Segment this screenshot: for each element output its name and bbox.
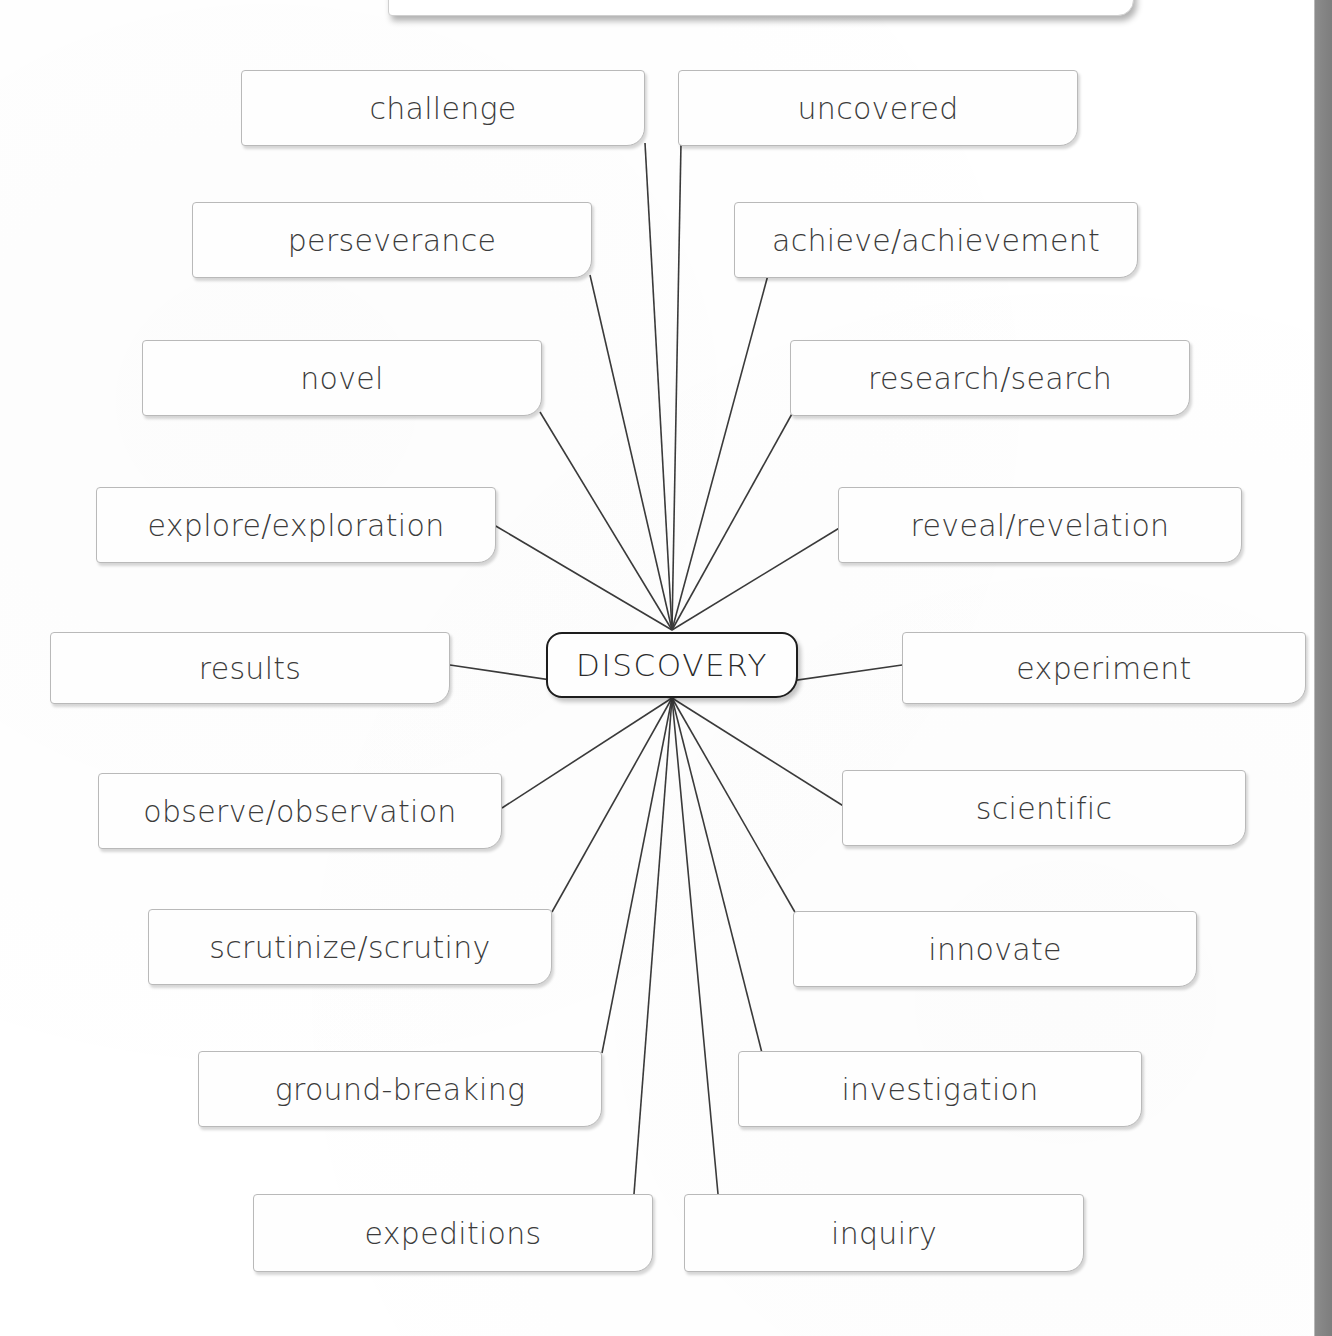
node-results[interactable]: results	[50, 632, 450, 704]
connector-innovate	[672, 698, 796, 914]
page-edge-strip-label	[1313, 170, 1331, 500]
node-inquiry[interactable]: inquiry	[684, 1194, 1084, 1272]
connector-groundbreak	[602, 698, 672, 1053]
connector-explore	[494, 525, 672, 630]
node-label: scientific	[976, 791, 1112, 826]
node-label: research/search	[868, 361, 1112, 396]
node-label: achieve/achievement	[772, 223, 1100, 258]
connector-uncovered	[672, 143, 681, 630]
connector-reveal	[672, 527, 841, 630]
connector-challenge	[645, 143, 672, 630]
node-label: reveal/revelation	[911, 508, 1170, 543]
node-challenge[interactable]: challenge	[241, 70, 645, 146]
node-experiment[interactable]: experiment	[902, 632, 1306, 704]
node-achieve[interactable]: achieve/achievement	[734, 202, 1138, 278]
node-investigate[interactable]: investigation	[738, 1051, 1142, 1127]
top-banner-remnant	[388, 0, 1134, 16]
node-label: investigation	[841, 1072, 1038, 1107]
connector-perseverance	[590, 275, 672, 630]
node-reveal[interactable]: reveal/revelation	[838, 487, 1242, 563]
connector-inquiry	[672, 698, 718, 1194]
node-label: expeditions	[365, 1216, 542, 1251]
connector-scientific	[672, 698, 845, 807]
node-label: challenge	[369, 91, 516, 126]
mind-map-canvas: DISCOVERYchallengeuncoveredperseverancea…	[0, 0, 1332, 1336]
node-label: perseverance	[288, 223, 496, 258]
node-perseverance[interactable]: perseverance	[192, 202, 592, 278]
connector-expeditions	[634, 698, 672, 1194]
node-explore[interactable]: explore/exploration	[96, 487, 496, 563]
node-label: explore/exploration	[148, 508, 445, 543]
page-edge-strip	[1310, 0, 1332, 1336]
node-label: experiment	[1016, 651, 1191, 686]
node-scientific[interactable]: scientific	[842, 770, 1246, 846]
node-label: results	[199, 651, 302, 686]
connector-novel	[540, 412, 672, 630]
connector-research	[672, 412, 793, 630]
node-label: novel	[300, 361, 383, 396]
node-observe[interactable]: observe/observation	[98, 773, 502, 849]
node-label: ground-breaking	[275, 1072, 526, 1107]
central-node-label: DISCOVERY	[576, 647, 768, 683]
node-groundbreak[interactable]: ground-breaking	[198, 1051, 602, 1127]
node-expeditions[interactable]: expeditions	[253, 1194, 653, 1272]
node-label: inquiry	[831, 1216, 937, 1251]
connector-investigate	[672, 698, 762, 1053]
central-node-discovery[interactable]: DISCOVERY	[546, 632, 798, 698]
node-research[interactable]: research/search	[790, 340, 1190, 416]
node-label: scrutinize/scrutiny	[209, 930, 490, 965]
node-scrutinize[interactable]: scrutinize/scrutiny	[148, 909, 552, 985]
node-label: uncovered	[798, 91, 959, 126]
node-novel[interactable]: novel	[142, 340, 542, 416]
connector-observe	[502, 698, 672, 808]
connector-achieve	[672, 275, 768, 630]
connector-scrutinize	[552, 698, 672, 912]
node-label: observe/observation	[143, 794, 456, 829]
node-uncovered[interactable]: uncovered	[678, 70, 1078, 146]
node-innovate[interactable]: innovate	[793, 911, 1197, 987]
node-label: innovate	[928, 932, 1061, 967]
